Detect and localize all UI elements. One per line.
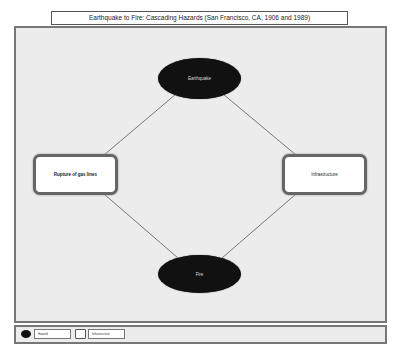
- node-earthquake-label: Earthquake: [188, 76, 211, 81]
- node-infrastructure-label: Infrastructure: [311, 172, 338, 177]
- diagram-title: Earthquake to Fire: Cascading Hazards (S…: [51, 11, 348, 25]
- node-earthquake[interactable]: Earthquake: [158, 58, 241, 99]
- legend-infrastructure-label: Infrastructure: [88, 329, 125, 339]
- node-rupture-of-gas-lines[interactable]: Rupture of gas lines: [33, 154, 118, 195]
- node-infrastructure[interactable]: Infrastructure: [282, 154, 367, 195]
- legend: Hazard Infrastructure: [14, 325, 387, 344]
- legend-infrastructure-swatch-icon: [75, 329, 86, 339]
- legend-hazard-swatch-icon: [21, 330, 31, 338]
- node-fire-label: Fire: [196, 272, 204, 277]
- legend-hazard-label: Hazard: [34, 329, 71, 339]
- node-rupture-label: Rupture of gas lines: [54, 172, 97, 177]
- node-fire[interactable]: Fire: [158, 255, 241, 293]
